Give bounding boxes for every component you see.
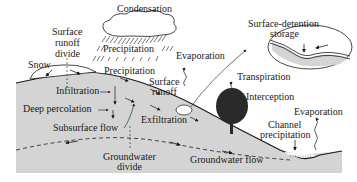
label-surface-runoff-divide-2: runoff: [55, 37, 80, 48]
cloud-icon: [103, 10, 176, 36]
label-interception: Interception: [246, 91, 294, 102]
label-transpiration: Transpiration: [237, 71, 291, 82]
label-snow: Snow: [28, 59, 52, 70]
evaporation-arrow-channel: [315, 118, 318, 150]
label-surface-runoff-2: runoff: [152, 86, 177, 97]
label-deep-percolation: Deep percolation: [23, 103, 92, 114]
label-surface-detention-2: storage: [270, 28, 299, 39]
label-evaporation-top: Evaporation: [176, 50, 225, 61]
label-channel-precipitation-2: precipitation: [260, 129, 311, 140]
label-exfiltration: Exfiltration: [141, 114, 187, 125]
label-groundwater-flow: Groundwater flow: [190, 154, 264, 165]
label-surface-runoff-divide-1: Surface: [52, 26, 83, 37]
label-groundwater-divide-2: divide: [117, 161, 143, 172]
label-evaporation-channel: Evaporation: [294, 106, 343, 117]
hydrologic-cycle-diagram: Condensation Surface runoff divide Preci…: [0, 0, 357, 182]
label-precipitation-rain: Precipitation: [103, 43, 154, 54]
label-subsurface-flow: Subsurface flow: [53, 122, 119, 133]
evaporation-arrow-top: [184, 68, 187, 86]
label-surface-runoff-divide-3: divide: [55, 48, 81, 59]
label-precipitation-ground: Precipitation: [104, 65, 155, 76]
label-condensation: Condensation: [117, 3, 172, 14]
label-infiltration: Infiltration: [56, 85, 99, 96]
